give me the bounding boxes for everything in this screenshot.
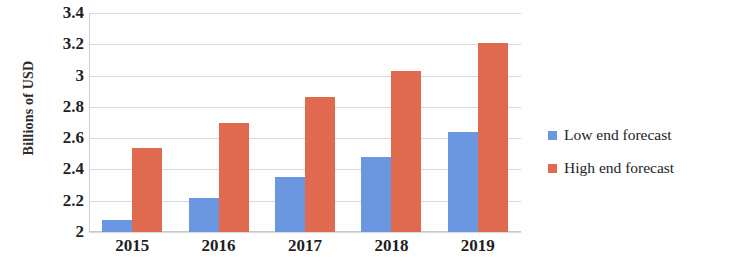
y-axis-tick-label: 2.8 — [30, 97, 84, 117]
bar-group — [348, 13, 434, 232]
bar — [478, 43, 508, 232]
legend-swatch-icon — [548, 131, 557, 140]
bar — [448, 132, 478, 232]
legend-label: Low end forecast — [564, 126, 672, 144]
y-axis-tick-label: 2.6 — [30, 128, 84, 148]
bar — [275, 177, 305, 232]
bar — [189, 198, 219, 232]
x-axis-tick-label: 2016 — [175, 236, 261, 256]
y-axis-tick-label: 3.4 — [30, 3, 84, 23]
bar — [305, 97, 335, 232]
y-axis-tick-label: 2 — [30, 222, 84, 242]
bar-group — [89, 13, 175, 232]
y-axis-tick-label: 3.2 — [30, 34, 84, 54]
bar — [361, 157, 391, 232]
legend-entry: Low end forecast — [548, 126, 674, 144]
legend-label: High end forecast — [564, 159, 674, 177]
plot-area — [89, 13, 521, 232]
y-axis-tick-label: 2.2 — [30, 191, 84, 211]
bars-layer — [89, 13, 521, 232]
y-axis-tick-label: 2.4 — [30, 159, 84, 179]
bar — [219, 123, 249, 233]
x-axis-tick-label: 2015 — [89, 236, 175, 256]
x-axis-tick-labels: 20152016201720182019 — [89, 236, 521, 256]
bar-chart: Billions of USD 3.43.232.82.62.42.22 201… — [0, 0, 734, 266]
chart-legend: Low end forecastHigh end forecast — [548, 126, 674, 177]
bar-group — [435, 13, 521, 232]
bar — [132, 148, 162, 232]
x-axis-tick-label: 2017 — [262, 236, 348, 256]
legend-swatch-icon — [548, 164, 557, 173]
bar — [391, 71, 421, 232]
y-axis-tick-label: 3 — [30, 66, 84, 86]
bar — [102, 220, 132, 233]
x-axis-tick-label: 2019 — [435, 236, 521, 256]
y-axis-tick-labels: 3.43.232.82.62.42.22 — [30, 0, 84, 240]
legend-entry: High end forecast — [548, 159, 674, 177]
x-axis-tick-label: 2018 — [348, 236, 434, 256]
gridline — [89, 232, 521, 233]
bar-group — [175, 13, 261, 232]
bar-group — [262, 13, 348, 232]
